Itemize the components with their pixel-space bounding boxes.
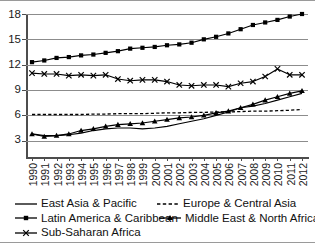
legend-item-middle-east-north-africa[interactable]: Middle East & North Africa (158, 212, 315, 225)
line-triangle-icon (158, 212, 182, 224)
x-tick-label: 1998 (125, 163, 137, 186)
line-x-icon (14, 227, 38, 239)
y-tick-label: 9 (0, 83, 21, 95)
x-tick-label: 2010 (272, 163, 284, 186)
x-tick-label: 1996 (101, 163, 113, 186)
x-tick-label: 1994 (76, 163, 88, 186)
legend-item-sub-saharan-africa[interactable]: Sub-Saharan Africa (14, 226, 158, 239)
x-tick (204, 157, 205, 161)
x-tick (44, 157, 45, 161)
x-tick (277, 157, 278, 161)
x-tick-label: 2009 (260, 163, 272, 186)
x-tick (69, 157, 70, 161)
x-tick (118, 157, 119, 161)
x-tick (179, 157, 180, 161)
x-tick (290, 157, 291, 161)
line-dashed-icon (156, 198, 180, 210)
x-tick-label: 1990 (27, 163, 39, 186)
y-tick-label: 15 (0, 33, 21, 45)
x-tick (216, 157, 217, 161)
x-tick (57, 157, 58, 161)
series-plot (26, 14, 308, 142)
legend-label: Middle East & North Africa (185, 212, 315, 225)
x-tick-label: 2005 (211, 163, 223, 186)
legend-row: Latin America & CaribbeanMiddle East & N… (14, 212, 314, 227)
x-tick-label: 2012 (297, 163, 309, 186)
y-tick-label: 18 (0, 8, 21, 20)
y-tick-label: 12 (0, 58, 21, 70)
x-tick-label: 2001 (162, 163, 174, 186)
x-tick-label: 2007 (236, 163, 248, 186)
x-tick (228, 157, 229, 161)
chart-legend: East Asia & PacificEurope & Central Asia… (14, 197, 314, 241)
x-tick (81, 157, 82, 161)
x-tick-label: 2000 (150, 163, 162, 186)
legend-label: East Asia & Pacific (41, 197, 137, 210)
x-tick (93, 157, 94, 161)
x-tick (265, 157, 266, 161)
x-tick (241, 157, 242, 161)
y-tick-label: 3 (0, 133, 21, 145)
legend-label: Europe & Central Asia (183, 197, 296, 210)
x-tick-label: 1995 (88, 163, 100, 186)
x-tick-label: 2006 (223, 163, 235, 186)
series-latin-america-caribbean (30, 12, 304, 64)
x-tick (130, 157, 131, 161)
line-solid-icon (14, 198, 38, 210)
legend-item-latin-america-caribbean[interactable]: Latin America & Caribbean (14, 212, 158, 225)
line-square-icon (14, 212, 38, 224)
x-tick-label: 1993 (64, 163, 76, 186)
x-tick (142, 157, 143, 161)
legend-label: Sub-Saharan Africa (41, 226, 141, 239)
x-tick (32, 157, 33, 161)
legend-row: East Asia & PacificEurope & Central Asia (14, 197, 314, 212)
legend-item-europe-central-asia[interactable]: Europe & Central Asia (156, 197, 314, 210)
legend-item-east-asia-pacific[interactable]: East Asia & Pacific (14, 197, 156, 210)
x-tick-label: 1999 (137, 163, 149, 186)
x-tick (106, 157, 107, 161)
x-tick (155, 157, 156, 161)
x-tick-label: 2003 (187, 163, 199, 186)
series-sub-saharan-africa (29, 66, 304, 89)
x-tick-label: 2011 (285, 163, 297, 186)
x-tick (192, 157, 193, 161)
x-tick (253, 157, 254, 161)
x-tick-label: 1991 (39, 163, 51, 186)
x-tick-label: 2008 (248, 163, 260, 186)
x-tick-label: 2004 (199, 163, 211, 186)
chart-figure: 18 15 12 9 6 3 1990199119921993199419951… (0, 0, 315, 243)
y-tick-label: 6 (0, 108, 21, 120)
legend-row: Sub-Saharan Africa (14, 226, 314, 241)
x-tick (167, 157, 168, 161)
x-tick-label: 1992 (52, 163, 64, 186)
series-europe-central-asia (32, 109, 302, 114)
plot-area (26, 14, 308, 142)
x-tick (302, 157, 303, 161)
x-tick-label: 2002 (174, 163, 186, 186)
x-tick-label: 1997 (113, 163, 125, 186)
